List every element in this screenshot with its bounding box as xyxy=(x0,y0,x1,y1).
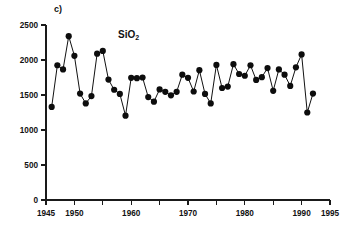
data-point xyxy=(225,84,231,90)
data-point xyxy=(208,100,214,106)
y-tick-label: 1000 xyxy=(20,126,39,135)
data-point xyxy=(219,85,225,91)
data-point xyxy=(299,51,305,57)
data-point xyxy=(236,71,242,77)
data-point xyxy=(66,33,72,39)
data-point xyxy=(122,113,128,119)
data-point xyxy=(128,75,134,81)
data-point xyxy=(259,74,265,80)
chart-plot-area: 05001000150020002500 1945195019601970198… xyxy=(0,0,360,231)
y-axis-ticks xyxy=(41,25,46,200)
data-point xyxy=(111,87,117,93)
data-point xyxy=(191,88,197,94)
data-point xyxy=(287,83,293,89)
data-point xyxy=(94,51,100,57)
data-point xyxy=(276,66,282,72)
y-tick-label: 2000 xyxy=(20,56,39,65)
x-tick-label: 1970 xyxy=(179,209,198,218)
data-point xyxy=(117,91,123,97)
data-point xyxy=(253,77,259,83)
x-tick-label: 1990 xyxy=(292,209,311,218)
data-point xyxy=(202,91,208,97)
y-tick-label: 1500 xyxy=(20,91,39,100)
y-tick-label: 500 xyxy=(24,161,38,170)
y-tick-label: 2500 xyxy=(20,21,39,30)
data-point xyxy=(168,92,174,98)
y-tick-label: 0 xyxy=(33,196,38,205)
x-tick-label: 1980 xyxy=(236,209,255,218)
data-point xyxy=(71,53,77,59)
data-point xyxy=(213,62,219,68)
data-point xyxy=(185,75,191,81)
data-point xyxy=(139,74,145,80)
data-point xyxy=(88,93,94,99)
y-axis: 05001000150020002500 xyxy=(20,21,46,205)
data-point xyxy=(54,62,60,68)
data-point xyxy=(134,75,140,81)
x-tick-label: 1995 xyxy=(321,209,340,218)
x-tick-label: 1960 xyxy=(122,209,141,218)
data-point xyxy=(83,100,89,106)
data-point xyxy=(49,104,55,110)
data-point xyxy=(304,109,310,115)
data-point xyxy=(281,72,287,78)
data-point xyxy=(174,89,180,95)
data-point xyxy=(247,62,253,68)
data-point xyxy=(145,94,151,100)
data-point xyxy=(151,99,157,105)
x-tick-label: 1950 xyxy=(65,209,84,218)
data-point xyxy=(100,48,106,54)
data-point xyxy=(264,65,270,71)
data-point xyxy=(196,67,202,73)
x-axis: 1945195019601970198019901995 xyxy=(37,200,340,218)
x-tick-label: 1945 xyxy=(37,209,56,218)
data-point xyxy=(162,89,168,95)
x-axis-ticks xyxy=(46,200,330,205)
x-axis-tick-labels: 1945195019601970198019901995 xyxy=(37,209,340,218)
data-point xyxy=(270,88,276,94)
data-point xyxy=(293,64,299,70)
data-point xyxy=(242,73,248,79)
data-point xyxy=(105,77,111,83)
data-point xyxy=(60,66,66,72)
data-point xyxy=(230,61,236,67)
y-axis-tick-labels: 05001000150020002500 xyxy=(20,21,39,205)
series-markers xyxy=(49,33,316,119)
data-point xyxy=(179,72,185,78)
data-point xyxy=(310,91,316,97)
sio2-time-series-figure: c) SiO2 05001000150020002500 19451950196… xyxy=(0,0,360,231)
data-point xyxy=(77,91,83,97)
data-point xyxy=(157,86,163,92)
data-series-sio2 xyxy=(49,33,316,119)
